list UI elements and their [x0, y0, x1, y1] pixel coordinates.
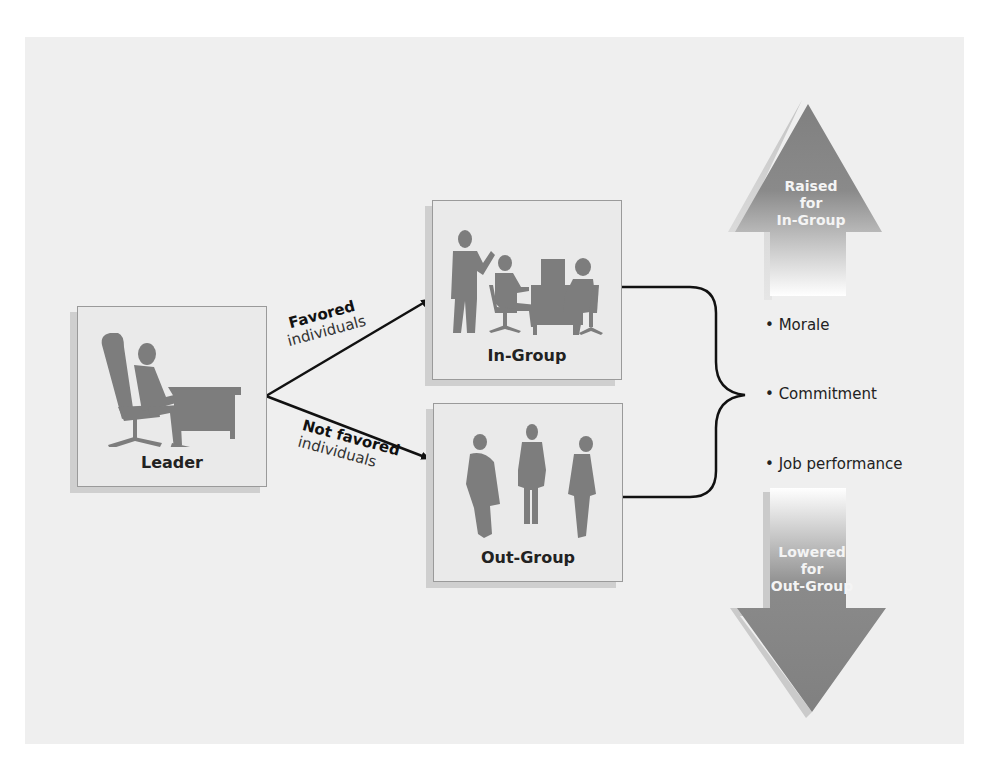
lowered-arrow-label: Lowered for Out-Group: [760, 544, 864, 595]
bullet-icon: •: [765, 455, 779, 473]
in-group-label: In-Group: [433, 346, 621, 365]
leader-box: Leader: [77, 306, 267, 487]
three-standing-people-icon: [434, 404, 622, 544]
in-group-box: In-Group: [432, 200, 622, 380]
outcome-morale: • Morale: [765, 316, 830, 334]
lowered-arrow-icon: [737, 488, 886, 712]
leader-label: Leader: [78, 453, 266, 472]
outcome-job-performance: • Job performance: [765, 455, 903, 473]
bullet-icon: •: [765, 385, 779, 403]
bullet-icon: •: [765, 316, 779, 334]
out-group-box: Out-Group: [433, 403, 623, 582]
outcome-commitment: • Commitment: [765, 385, 877, 403]
raised-arrow-label: Raised for In-Group: [764, 178, 858, 229]
grouping-brace: [621, 287, 745, 497]
office-team-icon: [433, 201, 621, 341]
seated-leader-at-desk-icon: [78, 307, 266, 447]
out-group-label: Out-Group: [434, 548, 622, 567]
